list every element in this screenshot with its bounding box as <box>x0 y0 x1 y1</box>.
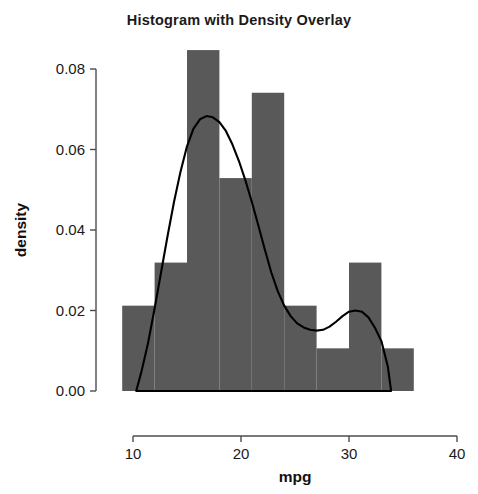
chart-figure: Histogram with Density Overlay 0.000.020… <box>0 0 478 494</box>
histogram-bars <box>122 50 414 391</box>
x-axis-tick-label: 10 <box>125 445 142 462</box>
x-axis-title: mpg <box>279 468 312 485</box>
histogram-bar <box>349 263 381 391</box>
x-axis-tick-label: 20 <box>233 445 250 462</box>
y-axis-tick-label: 0.00 <box>56 382 85 399</box>
histogram-bar <box>219 178 251 391</box>
y-axis-tick-label: 0.04 <box>56 221 85 238</box>
histogram-bar <box>122 306 154 391</box>
y-axis-tick-label: 0.08 <box>56 60 85 77</box>
y-axis-title: density <box>12 202 29 257</box>
x-axis-tick-label: 40 <box>449 445 466 462</box>
histogram-bar <box>252 93 284 391</box>
histogram-bar <box>381 348 413 391</box>
x-axis-tick-label: 30 <box>341 445 358 462</box>
y-axis-tick-label: 0.02 <box>56 302 85 319</box>
y-axis-tick-label: 0.06 <box>56 141 85 158</box>
histogram-bar <box>187 50 219 391</box>
chart-canvas: 0.000.020.040.060.0810203040mpgdensity <box>0 0 478 494</box>
histogram-bar <box>317 348 349 391</box>
histogram-bar <box>284 306 316 391</box>
